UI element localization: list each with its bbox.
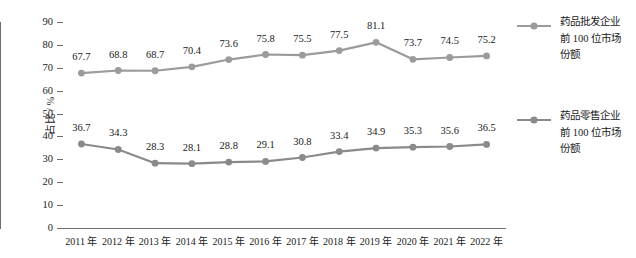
data-point-marker — [189, 160, 196, 167]
y-tick-mark — [57, 45, 63, 46]
legend-marker-icon — [516, 20, 552, 32]
data-point-marker — [189, 63, 196, 70]
y-tick-mark — [57, 159, 63, 160]
y-tick-mark — [57, 182, 63, 183]
data-point-marker — [262, 158, 269, 165]
legend-label-retail-line3: 份额 — [560, 141, 636, 158]
data-point-marker — [483, 141, 490, 148]
y-tick-label: 40 — [24, 131, 53, 142]
data-point-marker — [373, 39, 380, 46]
data-point-marker — [225, 159, 232, 166]
y-tick-mark — [57, 91, 63, 92]
data-point-marker — [225, 56, 232, 63]
y-tick-label: 20 — [24, 177, 53, 188]
data-point-marker — [446, 54, 453, 61]
data-point-marker — [373, 145, 380, 152]
data-point-marker — [410, 56, 417, 63]
data-point-marker — [410, 144, 417, 151]
y-tick-mark — [57, 68, 63, 69]
legend-label-wholesale: 药品批发企业 前 100 位市场 份额 — [560, 14, 636, 64]
data-point-label: 36.5 — [465, 122, 509, 133]
data-point-marker — [78, 70, 85, 77]
data-point-marker — [152, 160, 159, 167]
y-tick-mark — [57, 114, 63, 115]
y-axis-line — [0, 22, 1, 229]
data-point-marker — [152, 67, 159, 74]
x-axis-line — [63, 228, 506, 229]
y-tick-mark — [57, 205, 63, 206]
data-point-marker — [336, 148, 343, 155]
legend-label-wholesale-line2: 前 100 位市场 — [560, 31, 636, 48]
y-tick-label: 30 — [24, 154, 53, 165]
legend-marker-icon — [516, 114, 552, 126]
y-tick-label: 10 — [24, 200, 53, 211]
y-tick-label: 50 — [24, 109, 53, 120]
y-tick-label: 90 — [24, 17, 53, 28]
y-tick-label: 70 — [24, 63, 53, 74]
data-point-label: 75.2 — [465, 34, 509, 45]
legend-label-retail-line1: 药品零售企业 — [560, 108, 636, 125]
data-point-marker — [115, 146, 122, 153]
line-chart: 占比 / % 9080706050403020100 2011 年2012 年2… — [0, 0, 636, 258]
y-tick-mark — [57, 22, 63, 23]
data-point-marker — [483, 52, 490, 59]
y-tick-mark — [57, 136, 63, 137]
legend-label-retail: 药品零售企业 前 100 位市场 份额 — [560, 108, 636, 158]
data-point-marker — [262, 51, 269, 58]
y-tick-mark — [57, 228, 63, 229]
data-point-marker — [78, 141, 85, 148]
legend-label-wholesale-line3: 份额 — [560, 47, 636, 64]
x-tick-label: 2022 年 — [459, 236, 515, 248]
y-tick-label: 80 — [24, 40, 53, 51]
data-point-marker — [115, 67, 122, 74]
data-point-marker — [299, 52, 306, 59]
legend-label-wholesale-line1: 药品批发企业 — [560, 14, 636, 31]
y-tick-label: 60 — [24, 86, 53, 97]
data-point-label: 34.3 — [96, 127, 140, 138]
data-point-marker — [446, 143, 453, 150]
y-tick-label: 0 — [24, 223, 53, 234]
legend-label-retail-line2: 前 100 位市场 — [560, 125, 636, 142]
data-point-marker — [299, 154, 306, 161]
data-point-marker — [336, 47, 343, 54]
data-point-label: 81.1 — [354, 20, 398, 31]
